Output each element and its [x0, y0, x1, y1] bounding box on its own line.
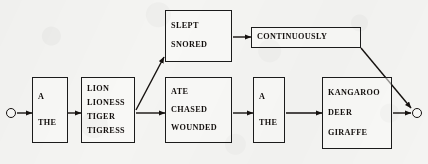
object-noun-box-word: KANGAROO — [323, 89, 391, 98]
determiner-box-1-word: THE — [33, 119, 67, 128]
transitive-verb-box-word: ATE — [166, 88, 231, 97]
object-noun-box[interactable]: KANGAROODEERGIRAFFE — [322, 77, 392, 149]
transitive-verb-box-word: WOUNDED — [166, 124, 231, 133]
subject-noun-box-word: LIONESS — [82, 99, 134, 108]
start-terminal[interactable] — [6, 108, 16, 118]
intransitive-verb-box-word: SNORED — [166, 41, 231, 50]
intransitive-verb-box[interactable]: SLEPTSNORED — [165, 10, 232, 62]
adverb-box[interactable]: CONTINUOUSLY — [251, 27, 361, 48]
transitive-verb-box[interactable]: ATECHASEDWOUNDED — [165, 77, 232, 143]
intransitive-verb-box-word: SLEPT — [166, 22, 231, 31]
transitive-verb-box-word: CHASED — [166, 106, 231, 115]
determiner-box-2[interactable]: ATHE — [253, 77, 285, 143]
end-terminal[interactable] — [412, 108, 422, 118]
subject-noun-box-word: TIGER — [82, 113, 134, 122]
determiner-box-2-word: THE — [254, 119, 284, 128]
adverb-box-word: CONTINUOUSLY — [252, 33, 360, 42]
object-noun-box-word: DEER — [323, 109, 391, 118]
subject-noun-box-word: LION — [82, 85, 134, 94]
object-noun-box-word: GIRAFFE — [323, 129, 391, 138]
determiner-box-1[interactable]: ATHE — [32, 77, 68, 143]
subject-noun-box[interactable]: LIONLIONESSTIGERTIGRESS — [81, 77, 135, 143]
subject-noun-box-word: TIGRESS — [82, 127, 134, 136]
determiner-box-2-word: A — [254, 93, 284, 102]
determiner-box-1-word: A — [33, 93, 67, 102]
edge-subject-to-intransitive — [136, 57, 164, 110]
